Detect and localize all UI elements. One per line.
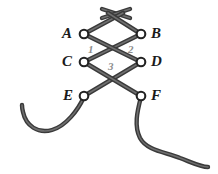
eyelet-label-f: F [151, 88, 161, 103]
eyelet-label-e: E [63, 88, 73, 103]
eyelet-label-b: B [151, 26, 161, 41]
segment-label-2: 2 [128, 44, 134, 55]
eyelet-A[interactable] [80, 30, 89, 39]
segment-label-1: 1 [88, 44, 94, 55]
eyelet-label-a: A [62, 26, 72, 41]
lace-upper-v-group [84, 13, 141, 34]
lace-svg [0, 0, 218, 174]
eyelet-label-d: D [151, 54, 162, 69]
eyelet-F[interactable] [137, 92, 146, 101]
eyelet-label-c: C [62, 54, 72, 69]
segment-label-3: 3 [108, 61, 114, 72]
lace-tail-right-group [137, 97, 208, 167]
eyelet-D[interactable] [137, 58, 146, 67]
lacing-diagram: A B C D E F 1 2 3 [0, 0, 218, 174]
eyelet-B[interactable] [137, 30, 146, 39]
lace-tail-right [137, 97, 208, 167]
eyelet-E[interactable] [80, 92, 89, 101]
lace-tail-left-group [22, 97, 84, 131]
eyelet-C[interactable] [80, 58, 89, 67]
